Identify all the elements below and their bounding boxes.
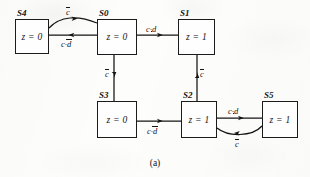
arrow-s4-to-s0	[49, 17, 97, 28]
lbl-overline: d	[153, 127, 157, 136]
lbl-overline: c	[235, 140, 239, 149]
state-box-s3[interactable]: z = 0	[97, 101, 137, 138]
figure-state-diagram: z = 0 S4 z = 0 S0 z = 1 S1 z = 0 S3 z = …	[0, 0, 310, 177]
state-label-s3: S3	[99, 90, 109, 100]
state-label-s1: S1	[180, 8, 190, 18]
arrow-s0-to-s4	[49, 33, 97, 38]
lbl-overline: d	[67, 40, 71, 49]
state-box-s5[interactable]: z = 1	[262, 101, 298, 138]
state-box-s1[interactable]: z = 1	[178, 19, 215, 55]
state-output-s4: z = 0	[21, 32, 42, 42]
edge-label-s2-to-s1: c	[200, 70, 204, 79]
arrow-s0-to-s1	[137, 33, 178, 38]
state-output-s2: z = 1	[188, 115, 209, 125]
edge-label-s0-to-s1: c·d	[146, 25, 156, 34]
arrow-s3-to-s2	[137, 119, 181, 124]
lbl-post: d	[152, 24, 156, 34]
state-output-s5: z = 1	[269, 115, 290, 125]
edge-label-s4-to-s0: c	[66, 8, 70, 17]
state-output-s0: z = 0	[106, 32, 127, 42]
edge-label-s2-to-s5: c·d	[228, 107, 238, 116]
lbl-overline: c	[105, 70, 109, 79]
edge-label-s0-to-s3: c	[105, 70, 109, 79]
arrow-s5-to-s2	[217, 126, 262, 136]
state-box-s0[interactable]: z = 0	[97, 19, 137, 55]
state-label-s2: S2	[183, 90, 193, 100]
state-label-s4: S4	[17, 8, 27, 18]
state-box-s4[interactable]: z = 0	[15, 19, 49, 54]
state-output-s3: z = 0	[106, 115, 127, 125]
lbl-overline: c	[200, 70, 204, 79]
figure-caption: (a)	[0, 158, 310, 168]
edge-label-s0-to-s4: c·d	[61, 40, 71, 49]
state-label-s0: S0	[99, 8, 109, 18]
arrow-s0-to-s3	[112, 55, 117, 101]
arrow-s2-to-s5	[217, 116, 262, 121]
state-box-s2[interactable]: z = 1	[181, 101, 217, 138]
arrow-s2-to-s1	[195, 55, 200, 101]
lbl-post: d	[234, 106, 238, 116]
edge-label-s5-to-s2: c	[235, 140, 239, 149]
state-label-s5: S5	[264, 90, 274, 100]
edge-label-s3-to-s2: c·d	[147, 127, 157, 136]
lbl-overline: c	[66, 8, 70, 17]
state-output-s1: z = 1	[186, 32, 207, 42]
